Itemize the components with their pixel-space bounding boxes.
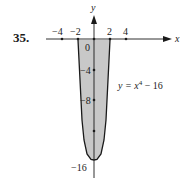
y-tick-dot [93, 99, 96, 102]
y-tick-label: −8 [80, 95, 91, 106]
x-tick-dot [109, 38, 112, 41]
x-tick-label: 4 [123, 26, 128, 37]
y-tick-label: −16 [71, 162, 87, 173]
x-axis-label: x [174, 33, 180, 44]
equation-lhs: y = x [117, 80, 139, 91]
x-tick-dot [77, 38, 80, 41]
y-axis-label: y [90, 2, 96, 13]
x-tick-dot [93, 38, 96, 41]
function-plot: x y −4 −2 0 2 4 −4 −8 −16 y = x4 − 16 [0, 0, 183, 180]
x-tick-label: −4 [52, 26, 63, 37]
y-tick-dot [93, 69, 96, 72]
x-tick-dot [125, 38, 128, 41]
equation-label: y = x4 − 16 [117, 79, 163, 91]
x-tick-label: 0 [85, 42, 90, 53]
x-tick-label: −2 [70, 26, 81, 37]
x-tick-label: 2 [107, 26, 112, 37]
y-axis-arrow-icon [91, 15, 97, 24]
y-tick-label: −4 [80, 65, 91, 76]
equation-rhs: − 16 [142, 80, 163, 91]
x-axis-arrow-icon [163, 36, 172, 42]
y-tick-dot [93, 130, 96, 133]
x-tick-dot [61, 38, 64, 41]
